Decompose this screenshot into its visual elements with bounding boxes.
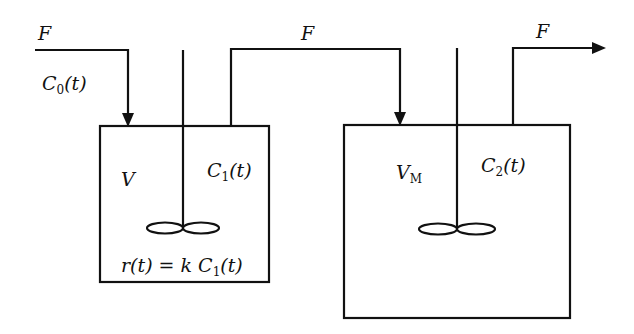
tank-2-concentration-label: C2(t) [481, 156, 526, 178]
stirrer-2-blade-left [419, 224, 457, 235]
outlet-arrow-icon [592, 42, 606, 54]
tank-2-volume-label: VM [396, 163, 422, 185]
tank-1-reaction-label: r(t) = k C1(t) [121, 256, 243, 278]
inlet-flow-label: F [38, 24, 51, 43]
reactor-diagram [0, 0, 634, 334]
stirrer-2-blade-right [457, 224, 495, 235]
tank-1-concentration-label: C1(t) [207, 161, 252, 183]
inlet-concentration-label: C0(t) [42, 74, 87, 96]
stirrer-1-blade-left [147, 223, 183, 234]
connector-pipe [231, 49, 400, 126]
outlet-pipe [513, 48, 594, 125]
outlet-flow-label: F [536, 22, 549, 41]
connector-flow-label: F [301, 24, 314, 43]
tank-1-volume-label: V [121, 170, 135, 189]
stirrer-1-blade-right [183, 223, 219, 234]
